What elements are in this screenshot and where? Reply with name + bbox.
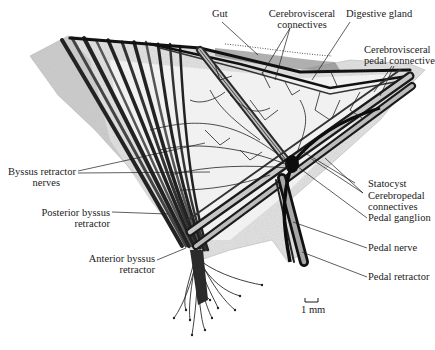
label-line: nerves xyxy=(4,177,76,188)
label-cerebrovisceral-connectives: Cerebrovisceral connectives xyxy=(262,8,342,30)
label-posterior-byssus-retractor: Posterior byssus retractor xyxy=(20,207,110,229)
label-pedal-retractor: Pedal retractor xyxy=(368,271,430,282)
label-cerebropedal-connectives: Cerebropedal connectives xyxy=(368,188,425,212)
label-digestive-gland: Digestive gland xyxy=(346,8,412,19)
label-line: pedal connective xyxy=(364,55,435,66)
label-byssus-retractor-nerves: Byssus retractor nerves xyxy=(4,166,76,188)
label-anterior-byssus-retractor: Anterior byssus retractor xyxy=(70,253,155,275)
label-line: Posterior byssus xyxy=(20,207,110,218)
label-line: connectives xyxy=(262,19,342,30)
label-line: retractor xyxy=(20,218,110,229)
label-line: Cerebrovisceral xyxy=(262,8,342,19)
scale-bar-label: 1 mm xyxy=(301,304,325,315)
label-gut: Gut xyxy=(212,8,228,19)
label-pedal-nerve: Pedal nerve xyxy=(368,242,417,253)
scale-bar xyxy=(305,298,318,302)
label-line: connectives xyxy=(368,201,425,212)
label-line: retractor xyxy=(70,264,155,275)
label-cerebrovisceral-pedal-connective: Cerebrovisceral pedal connective xyxy=(364,44,435,66)
label-line: Anterior byssus xyxy=(70,253,155,264)
label-line: Cerebropedal xyxy=(368,190,425,201)
label-line: Cerebrovisceral xyxy=(364,44,435,55)
label-line: Byssus retractor xyxy=(4,166,76,177)
label-pedal-ganglion: Pedal ganglion xyxy=(368,212,431,223)
byssus-threads xyxy=(174,262,262,335)
